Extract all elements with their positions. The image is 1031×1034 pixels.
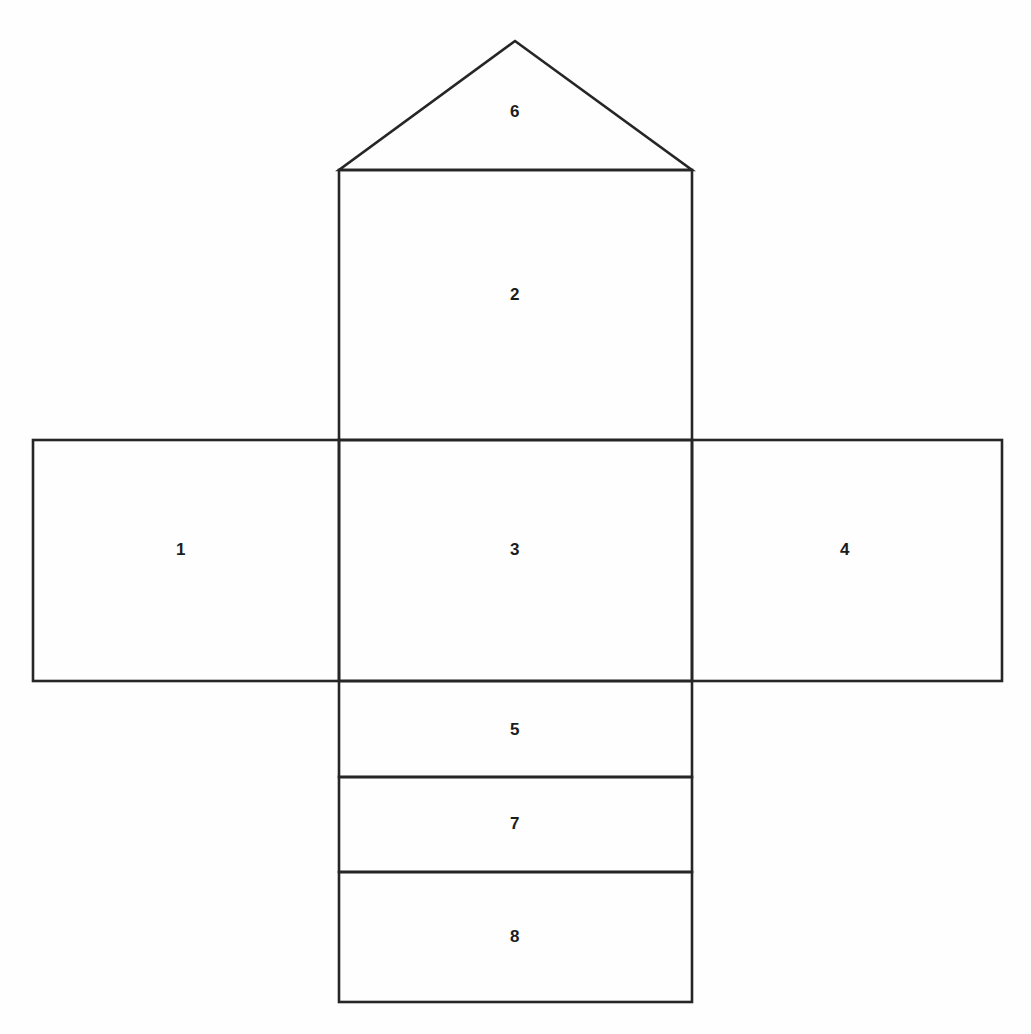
face-4-rect[interactable]: [692, 440, 1002, 681]
face-1-rect[interactable]: [33, 440, 339, 681]
face-label-3: 3: [510, 540, 520, 560]
diagram-canvas: cropped page heading (illegible — only d…: [0, 0, 1031, 1034]
face-label-4: 4: [840, 540, 850, 560]
face-2-rect[interactable]: [339, 170, 692, 440]
net-diagram: [0, 0, 1031, 1034]
face-label-6: 6: [510, 102, 520, 122]
face-label-5: 5: [510, 720, 520, 740]
face-label-1: 1: [176, 540, 186, 560]
face-label-8: 8: [510, 927, 520, 947]
face-label-2: 2: [510, 285, 520, 305]
face-label-7: 7: [510, 814, 520, 834]
face-3-rect[interactable]: [339, 440, 692, 681]
